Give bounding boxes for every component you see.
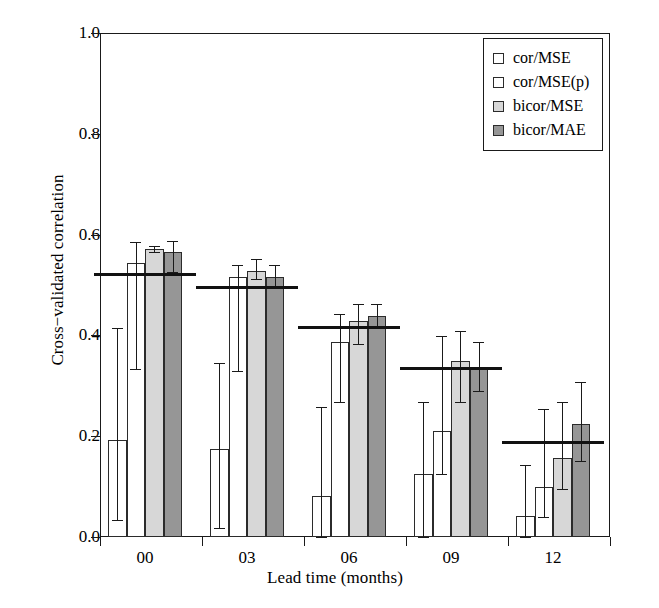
y-tick: 0.4 <box>0 335 100 336</box>
x-tick-mark <box>304 537 305 546</box>
error-bar-stem <box>562 402 563 489</box>
error-bar-cap-upper <box>112 328 123 329</box>
error-bar-cap-lower <box>149 252 160 253</box>
error-bar-stem <box>377 304 378 328</box>
x-tick-label: 00 <box>115 548 175 568</box>
x-tick-mark <box>202 537 203 546</box>
error-bar-cap-lower <box>557 489 568 490</box>
reference-line <box>400 367 502 370</box>
error-bar-cap-lower <box>473 391 484 392</box>
y-tick: 0.2 <box>0 436 100 437</box>
error-bar-cap-lower <box>130 369 141 370</box>
error-bar-cap-lower <box>455 402 466 403</box>
legend-item: cor/MSE(p) <box>493 70 593 94</box>
error-bar-stem <box>581 382 582 462</box>
y-tick: 0.8 <box>0 134 100 135</box>
y-axis-title: Cross−validated correlation <box>48 100 68 440</box>
bar <box>349 321 368 537</box>
chart-legend: cor/MSEcor/MSE(p)bicor/MSEbicor/MAE <box>483 38 603 151</box>
error-bar-cap-upper <box>538 409 549 410</box>
x-tick-label: 06 <box>319 548 379 568</box>
error-bar-cap-upper <box>334 314 345 315</box>
y-tick: 0.6 <box>0 235 100 236</box>
x-tick-mark <box>100 537 101 546</box>
y-tick: 0.0 <box>0 537 100 538</box>
y-tick-mark <box>91 235 100 236</box>
error-bar-cap-upper <box>353 304 364 305</box>
legend-swatch-icon <box>493 77 504 88</box>
error-bar-cap-lower <box>251 279 262 280</box>
error-bar-cap-upper <box>130 242 141 243</box>
error-bar-cap-upper <box>520 465 531 466</box>
y-tick-mark <box>91 537 100 538</box>
error-bar-cap-upper <box>473 342 484 343</box>
x-tick-label: 03 <box>217 548 277 568</box>
bar <box>266 277 285 537</box>
error-bar-stem <box>173 241 174 273</box>
error-bar-stem <box>358 304 359 344</box>
reference-line <box>196 286 298 289</box>
error-bar-cap-lower <box>214 528 225 529</box>
error-bar-stem <box>238 265 239 371</box>
legend-swatch-icon <box>493 101 504 112</box>
bar <box>470 367 489 537</box>
error-bar-cap-upper <box>371 304 382 305</box>
chart-figure: Cross−validated correlation Lead time (m… <box>0 0 659 608</box>
legend-label: cor/MSE(p) <box>513 74 589 90</box>
legend-swatch-icon <box>493 125 504 136</box>
error-bar-cap-upper <box>316 407 327 408</box>
error-bar-stem <box>256 259 257 279</box>
y-tick-mark <box>91 335 100 336</box>
error-bar-cap-upper <box>214 363 225 364</box>
x-axis-title: Lead time (months) <box>95 568 575 588</box>
error-bar-cap-upper <box>251 259 262 260</box>
error-bar-cap-lower <box>538 517 549 518</box>
reference-line <box>502 441 604 444</box>
legend-label: cor/MSE <box>513 50 571 66</box>
error-bar-cap-upper <box>232 265 243 266</box>
error-bar-stem <box>136 242 137 369</box>
x-tick-mark <box>406 537 407 546</box>
error-bar-cap-lower <box>353 344 364 345</box>
legend-swatch-icon <box>493 53 504 64</box>
error-bar-stem <box>525 465 526 537</box>
error-bar-cap-upper <box>149 246 160 247</box>
legend-label: bicor/MSE <box>513 98 583 114</box>
y-tick: 1.0 <box>0 33 100 34</box>
y-tick-mark <box>91 33 100 34</box>
error-bar-cap-upper <box>436 336 447 337</box>
error-bar-cap-lower <box>520 537 531 538</box>
legend-item: bicor/MAE <box>493 118 593 142</box>
error-bar-stem <box>275 265 276 287</box>
y-tick-mark <box>91 436 100 437</box>
error-bar-stem <box>423 402 424 537</box>
legend-label: bicor/MAE <box>513 122 586 138</box>
y-tick-mark <box>91 134 100 135</box>
x-tick-mark <box>508 537 509 546</box>
error-bar-stem <box>117 328 118 520</box>
error-bar-cap-upper <box>557 402 568 403</box>
error-bar-cap-lower <box>232 371 243 372</box>
error-bar-stem <box>442 336 443 474</box>
legend-item: cor/MSE <box>493 46 593 70</box>
reference-line <box>298 326 400 329</box>
reference-line <box>94 273 196 276</box>
error-bar-cap-lower <box>334 402 345 403</box>
bar <box>368 316 387 537</box>
error-bar-cap-upper <box>455 331 466 332</box>
error-bar-cap-lower <box>316 537 327 538</box>
bar <box>247 271 266 537</box>
error-bar-cap-upper <box>167 241 178 242</box>
legend-item: bicor/MSE <box>493 94 593 118</box>
error-bar-cap-upper <box>269 265 280 266</box>
x-tick-label: 09 <box>421 548 481 568</box>
error-bar-stem <box>544 409 545 516</box>
error-bar-cap-lower <box>575 461 586 462</box>
error-bar-stem <box>321 407 322 537</box>
error-bar-stem <box>219 363 220 528</box>
error-bar-cap-lower <box>112 520 123 521</box>
error-bar-cap-lower <box>436 474 447 475</box>
error-bar-cap-upper <box>575 382 586 383</box>
x-tick-label: 12 <box>523 548 583 568</box>
x-tick-mark <box>610 537 611 546</box>
